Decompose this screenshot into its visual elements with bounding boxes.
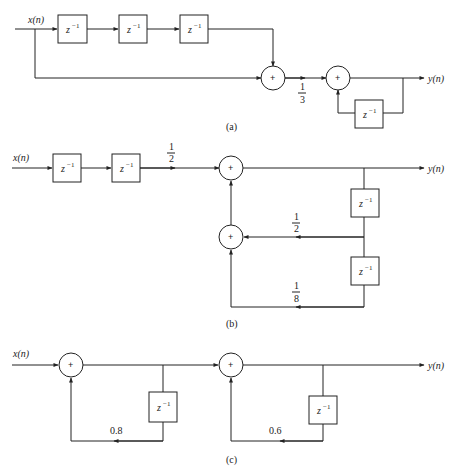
svg-text:−1: −1 bbox=[126, 161, 134, 169]
svg-text:z: z bbox=[316, 405, 321, 416]
svg-text:+: + bbox=[228, 163, 233, 173]
caption-c: (c) bbox=[226, 454, 237, 466]
gain-a-den: 3 bbox=[300, 94, 305, 105]
svg-text:+: + bbox=[68, 360, 73, 370]
caption-a: (a) bbox=[226, 121, 237, 133]
input-label-c: x(n) bbox=[12, 348, 30, 360]
svg-text:z: z bbox=[119, 163, 124, 174]
svg-text:z: z bbox=[60, 163, 65, 174]
svg-text:−1: −1 bbox=[365, 196, 373, 204]
output-label-c: y(n) bbox=[427, 360, 445, 372]
diagram-c: x(n) + z −1 0.8 + y(n) z −1 0.6 (c) bbox=[12, 348, 445, 466]
svg-text:z: z bbox=[65, 24, 70, 35]
caption-b: (b) bbox=[226, 318, 238, 330]
svg-text:−1: −1 bbox=[72, 22, 80, 30]
svg-text:−1: −1 bbox=[365, 264, 373, 272]
diagram-b: x(n) z −1 z −1 1 2 + y(n) z −1 z −1 1 2 bbox=[12, 141, 445, 330]
gain-b-fb2-den: 8 bbox=[294, 293, 299, 304]
svg-text:z: z bbox=[358, 198, 363, 209]
svg-text:−1: −1 bbox=[323, 403, 331, 411]
gain-b-fb1-num: 1 bbox=[294, 211, 299, 222]
output-label-a: y(n) bbox=[427, 73, 445, 85]
svg-text:z: z bbox=[156, 402, 161, 413]
gain-a-num: 1 bbox=[300, 81, 305, 92]
gain-b-fb1-den: 2 bbox=[294, 223, 299, 234]
gain-c-fb2: 0.6 bbox=[269, 425, 282, 436]
svg-text:+: + bbox=[335, 73, 340, 83]
gain-b-in-num: 1 bbox=[169, 141, 174, 152]
input-label-a: x(n) bbox=[27, 14, 45, 26]
svg-text:+: + bbox=[228, 232, 233, 242]
svg-text:z: z bbox=[362, 109, 367, 120]
block-diagrams: x(n) z −1 z −1 z −1 + 1 3 + y(n) bbox=[0, 0, 457, 473]
output-label-b: y(n) bbox=[427, 163, 445, 175]
svg-text:+: + bbox=[270, 73, 275, 83]
gain-c-fb1: 0.8 bbox=[110, 425, 123, 436]
diagram-a: x(n) z −1 z −1 z −1 + 1 3 + y(n) bbox=[15, 14, 445, 133]
gain-b-in-den: 2 bbox=[169, 153, 174, 164]
svg-text:−1: −1 bbox=[163, 400, 171, 408]
input-label-b: x(n) bbox=[12, 152, 30, 164]
svg-text:z: z bbox=[126, 24, 131, 35]
svg-text:+: + bbox=[228, 360, 233, 370]
svg-text:z: z bbox=[187, 24, 192, 35]
svg-text:−1: −1 bbox=[194, 22, 202, 30]
svg-text:−1: −1 bbox=[67, 161, 75, 169]
svg-text:−1: −1 bbox=[133, 22, 141, 30]
gain-b-fb2-num: 1 bbox=[294, 280, 299, 291]
svg-text:−1: −1 bbox=[369, 107, 377, 115]
svg-text:z: z bbox=[358, 266, 363, 277]
